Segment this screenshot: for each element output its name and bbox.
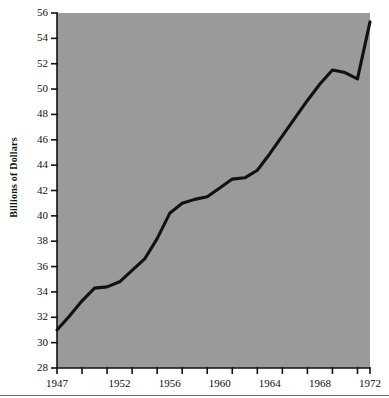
- plot-svg: [0, 0, 389, 398]
- page-bottom-rule: [0, 395, 389, 396]
- chart-container: Billions of Dollars 56545250484644424038…: [0, 0, 389, 398]
